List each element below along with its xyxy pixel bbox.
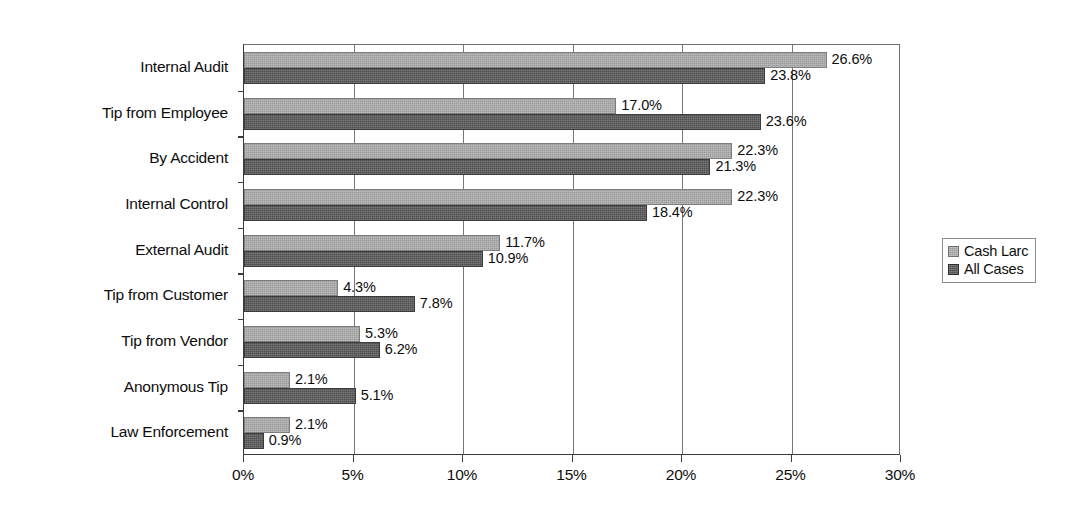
category-label: Tip from Customer: [0, 286, 228, 303]
category-label: Law Enforcement: [0, 423, 228, 440]
bar-group: 2.1%5.1%: [244, 365, 899, 411]
bar-value-label: 22.3%: [737, 142, 778, 158]
bar-value-label: 17.0%: [621, 97, 662, 113]
category-tick: [238, 182, 244, 183]
bar-value-label: 2.1%: [295, 416, 328, 432]
x-tick-label: 25%: [775, 466, 805, 484]
bar-value-label: 26.6%: [832, 51, 873, 67]
bar-group: 5.3%6.2%: [244, 319, 899, 365]
x-tick-label: 0%: [232, 466, 254, 484]
bar: [244, 296, 415, 312]
bar: [244, 52, 827, 68]
x-tick-mark: [462, 455, 463, 462]
legend-swatch-icon: [948, 246, 959, 257]
x-axis: 0%5%10%15%20%25%30%: [243, 455, 901, 501]
bar-value-label: 10.9%: [488, 250, 529, 266]
category-label: Tip from Employee: [0, 104, 228, 121]
bar-value-label: 23.8%: [770, 67, 811, 83]
bar: [244, 189, 732, 205]
bar: [244, 251, 483, 267]
category-axis-labels: Internal AuditTip from EmployeeBy Accide…: [0, 44, 228, 455]
category-tick: [238, 319, 244, 320]
category-label: Tip from Vendor: [0, 332, 228, 349]
category-tick: [238, 273, 244, 274]
category-label: External Audit: [0, 241, 228, 258]
bar: [244, 280, 338, 296]
bar: [244, 388, 356, 404]
bar: [244, 342, 380, 358]
category-label: Internal Control: [0, 195, 228, 212]
bar-value-label: 2.1%: [295, 371, 328, 387]
bar-group: 2.1%0.9%: [244, 410, 899, 456]
bar-chart: Internal AuditTip from EmployeeBy Accide…: [0, 0, 1081, 518]
bar-value-label: 21.3%: [715, 158, 756, 174]
bar-group: 11.7%10.9%: [244, 228, 899, 274]
x-tick-label: 30%: [885, 466, 915, 484]
legend: Cash LarcAll Cases: [942, 238, 1036, 283]
category-label: Internal Audit: [0, 58, 228, 75]
x-tick-label: 15%: [556, 466, 586, 484]
x-tick-label: 20%: [666, 466, 696, 484]
bar-value-label: 22.3%: [737, 188, 778, 204]
category-label: Anonymous Tip: [0, 378, 228, 395]
category-tick: [238, 91, 244, 92]
legend-label: All Cases: [964, 261, 1023, 277]
bar: [244, 159, 710, 175]
x-tick-mark: [353, 455, 354, 462]
x-tick-label: 10%: [447, 466, 477, 484]
bar-value-label: 23.6%: [766, 113, 807, 129]
bar-value-label: 7.8%: [420, 295, 453, 311]
category-tick: [238, 410, 244, 411]
bar: [244, 205, 647, 221]
bar: [244, 433, 264, 449]
bar-value-label: 5.3%: [365, 325, 398, 341]
x-tick-label: 5%: [341, 466, 363, 484]
bar-value-label: 4.3%: [343, 279, 376, 295]
bar: [244, 98, 616, 114]
legend-label: Cash Larc: [964, 243, 1028, 259]
legend-item: Cash Larc: [948, 242, 1028, 260]
bar-group: 4.3%7.8%: [244, 273, 899, 319]
x-tick-mark: [681, 455, 682, 462]
bar-group: 22.3%21.3%: [244, 136, 899, 182]
category-tick: [238, 228, 244, 229]
legend-item: All Cases: [948, 260, 1028, 278]
category-tick: [238, 365, 244, 366]
bar-value-label: 6.2%: [385, 341, 418, 357]
x-tick-mark: [900, 455, 901, 462]
bar: [244, 417, 290, 433]
bar: [244, 143, 732, 159]
bar-group: 22.3%18.4%: [244, 182, 899, 228]
legend-swatch-icon: [948, 264, 959, 275]
x-tick-mark: [572, 455, 573, 462]
x-tick-mark: [243, 455, 244, 462]
bar: [244, 326, 360, 342]
bar-value-label: 11.7%: [505, 234, 545, 250]
bar-group: 26.6%23.8%: [244, 45, 899, 91]
bar: [244, 372, 290, 388]
bar-value-label: 0.9%: [269, 432, 302, 448]
plot-area: 26.6%23.8%17.0%23.6%22.3%21.3%22.3%18.4%…: [243, 44, 900, 455]
category-label: By Accident: [0, 149, 228, 166]
bar-value-label: 5.1%: [361, 387, 394, 403]
bar: [244, 235, 500, 251]
bar: [244, 68, 765, 84]
bar: [244, 114, 761, 130]
bar-value-label: 18.4%: [652, 204, 693, 220]
category-tick: [238, 136, 244, 137]
bar-group: 17.0%23.6%: [244, 91, 899, 137]
x-tick-mark: [791, 455, 792, 462]
